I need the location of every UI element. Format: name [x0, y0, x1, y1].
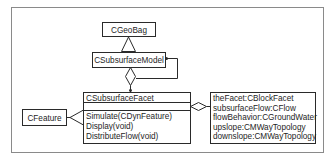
- member-line: theFacet:CBlockFacet: [213, 94, 294, 103]
- class-cgeobag-name: CGeoBag: [111, 26, 147, 35]
- member-line: subsurfaceFlow:CFlow: [213, 104, 296, 113]
- member-line: flowBehavior:CGroundWater: [213, 113, 317, 122]
- self-association-end-dot: [165, 57, 168, 60]
- class-members-box[interactable]: theFacet:CBlockFacet subsurfaceFlow:CFlo…: [211, 93, 318, 144]
- uml-class-diagram: CGeoBag CSubsurfaceModel CSubsurfaceFace…: [0, 0, 333, 160]
- member-line: downslope:CMWayTopology: [213, 132, 317, 141]
- member-line: upslope:CMWayTopology: [213, 123, 306, 132]
- aggregation-end-dot: [129, 89, 132, 92]
- facet-method: Simulate(CDynFeature): [86, 112, 172, 121]
- class-csubsurfacefacet[interactable]: CSubsurfaceFacet Simulate(CDynFeature) D…: [84, 93, 191, 144]
- class-csubsurfacefacet-name: CSubsurfaceFacet: [86, 94, 155, 103]
- class-cgeobag[interactable]: CGeoBag: [103, 23, 156, 37]
- class-csubsurfacemodel-name: CSubsurfaceModel: [94, 56, 164, 65]
- class-csubsurfacemodel[interactable]: CSubsurfaceModel: [93, 53, 166, 68]
- facet-method: DistributeFlow(void): [86, 132, 159, 141]
- class-cfeature[interactable]: CFeature: [23, 110, 67, 126]
- facet-method: Display(void): [86, 122, 134, 131]
- class-cfeature-name: CFeature: [27, 114, 62, 123]
